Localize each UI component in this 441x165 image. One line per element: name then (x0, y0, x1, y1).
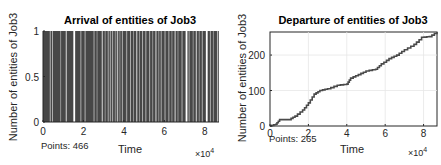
arrival-gap (80, 31, 81, 122)
arrival-gap (139, 31, 140, 122)
departure-chart-title: Departure of entities of Job3 (278, 14, 427, 26)
arrival-gap (136, 31, 137, 122)
departure-x-tick-label: 4 (344, 128, 350, 139)
arrival-gap (50, 31, 51, 122)
arrival-gap (73, 31, 75, 122)
arrival-chart-title: Arrival of entities of Job3 (64, 14, 196, 26)
departure-y-tick-label: 200 (248, 50, 265, 61)
arrival-gap (217, 31, 218, 122)
arrival-gap (202, 31, 203, 122)
arrival-gap (122, 31, 123, 122)
departure-y-ticks: 0100200 (248, 50, 272, 132)
arrival-gap (206, 31, 208, 122)
arrival-plot-area (43, 31, 219, 122)
departure-x-multiplier: ×104 (408, 146, 427, 158)
arrival-gap (108, 31, 109, 122)
departure-chart: Number of entities of Job3 Departure of … (220, 0, 441, 165)
departure-y-tick-label: 100 (248, 86, 265, 97)
arrival-x-tick-label: 2 (81, 126, 87, 137)
arrival-y-axis-label: Number of entities of Job3 (7, 13, 19, 141)
arrival-y-tick-label: 1 (33, 26, 39, 37)
arrival-gap (117, 31, 118, 122)
arrival-y-tick-label: 0.5 (25, 72, 39, 83)
arrival-gap (161, 31, 162, 122)
arrival-gap (126, 31, 127, 122)
arrival-gap (171, 31, 172, 122)
arrival-y-ticks: 00.51 (25, 26, 45, 128)
departure-plot-area (270, 32, 437, 126)
arrival-bars (43, 31, 219, 122)
arrival-gap (164, 31, 165, 122)
arrival-gap (196, 31, 197, 122)
arrival-gap (155, 31, 156, 122)
arrival-gap (110, 31, 111, 122)
arrival-gap (213, 31, 214, 122)
arrival-gap (112, 31, 113, 122)
departure-points-count: Points: 265 (269, 133, 317, 144)
arrival-gap (189, 31, 190, 122)
arrival-x-tick-label: 6 (162, 126, 168, 137)
arrival-gap (105, 31, 106, 122)
departure-x-tick-label: 8 (421, 128, 427, 139)
arrival-gap (174, 31, 175, 122)
arrival-x-tick-label: 0 (40, 126, 46, 137)
arrival-x-tick-label: 4 (121, 126, 127, 137)
arrival-chart: Number of entities of Job3 Arrival of en… (0, 0, 220, 165)
departure-chart-panel: Number of entities of Job3 Departure of … (220, 0, 441, 165)
arrival-gap (102, 31, 103, 122)
arrival-gap (149, 31, 150, 122)
arrival-x-tick-label: 8 (202, 126, 208, 137)
arrival-points-count: Points: 466 (41, 140, 89, 151)
arrival-x-multiplier: ×104 (195, 147, 214, 159)
arrival-gap (84, 31, 85, 122)
arrival-gap (115, 31, 116, 122)
arrival-gap (133, 31, 134, 122)
arrival-y-tick-label: 0 (33, 117, 39, 128)
arrival-gap (199, 31, 200, 122)
arrival-gap (130, 31, 131, 122)
arrival-gap (168, 31, 169, 122)
arrival-gap (97, 31, 98, 122)
departure-y-axis-label: Number of entities of Job3 (236, 14, 248, 142)
arrival-gap (186, 31, 188, 122)
arrival-gap (119, 31, 120, 122)
arrival-gap (145, 31, 146, 122)
arrival-gap (52, 31, 53, 122)
arrival-gap (178, 31, 179, 122)
arrival-gap (94, 31, 95, 122)
arrival-chart-panel: Number of entities of Job3 Arrival of en… (0, 0, 220, 165)
arrival-gap (193, 31, 194, 122)
arrival-gap (210, 31, 211, 122)
arrival-gap (152, 31, 153, 122)
departure-y-tick-label: 0 (259, 121, 265, 132)
arrival-x-axis-label: Time (118, 143, 142, 155)
departure-x-tick-label: 6 (382, 128, 388, 139)
arrival-gap (66, 31, 67, 122)
arrival-gap (158, 31, 159, 122)
arrival-gap (60, 31, 61, 122)
arrival-gap (182, 31, 183, 122)
arrival-gap (142, 31, 143, 122)
departure-x-axis-label: Time (340, 143, 364, 155)
arrival-x-ticks: 02468 (40, 120, 208, 137)
